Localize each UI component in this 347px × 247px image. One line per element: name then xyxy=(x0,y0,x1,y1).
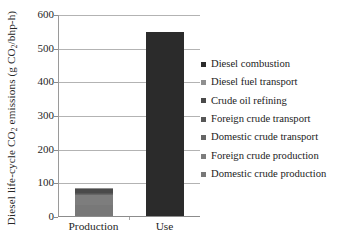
legend-item[interactable]: Domestic crude production xyxy=(201,165,347,183)
legend-item[interactable]: Foreign crude production xyxy=(201,147,347,165)
legend-item-label: Foreign crude transport xyxy=(211,114,310,125)
x-axis-tick-label: Use xyxy=(129,220,200,232)
x-axis-tick-labels: ProductionUse xyxy=(58,220,200,238)
y-axis-tick-label: 400 xyxy=(20,76,54,87)
legend-swatch-icon xyxy=(201,80,206,85)
bar-production[interactable] xyxy=(75,188,113,216)
legend-item[interactable]: Foreign crude transport xyxy=(201,110,347,128)
gridline xyxy=(58,15,200,16)
legend-item-label: Foreign crude production xyxy=(211,151,319,162)
legend-item-label: Diesel fuel transport xyxy=(211,77,298,88)
legend-item-label: Crude oil refining xyxy=(211,96,287,107)
chart-legend: Diesel combustionDiesel fuel transportCr… xyxy=(201,55,347,184)
y-axis-tick-label: 100 xyxy=(20,177,54,188)
legend-item-label: Diesel combustion xyxy=(211,59,290,70)
y-axis-title-pre: Diesel life-cycle CO xyxy=(5,131,17,225)
y-axis-tick-label: 0 xyxy=(20,211,54,222)
y-axis-tick xyxy=(54,217,58,218)
legend-item-label: Domestic crude transport xyxy=(211,132,318,143)
legend-item-label: Domestic crude production xyxy=(211,169,326,180)
plot-area xyxy=(58,15,200,217)
x-axis-tick-label: Production xyxy=(58,220,129,232)
y-axis-tick-labels: 0100200300400500600 xyxy=(18,15,54,217)
legend-swatch-icon xyxy=(201,135,206,140)
y-axis-tick-label: 500 xyxy=(20,43,54,54)
bar-segment xyxy=(75,205,113,216)
bar-segment xyxy=(146,32,184,216)
legend-swatch-icon xyxy=(201,154,206,159)
y-axis-title-mid: emissions (g CO xyxy=(5,48,17,127)
bar-segment xyxy=(75,188,113,189)
y-axis-tick-label: 600 xyxy=(20,9,54,20)
y-axis-line xyxy=(58,15,59,217)
legend-swatch-icon xyxy=(201,62,206,67)
legend-swatch-icon xyxy=(201,98,206,103)
chart-figure: Diesel life-cycle CO2 emissions (g CO2/b… xyxy=(0,0,347,247)
legend-swatch-icon xyxy=(201,117,206,122)
legend-item[interactable]: Diesel fuel transport xyxy=(201,73,347,91)
legend-item[interactable]: Crude oil refining xyxy=(201,92,347,110)
legend-item[interactable]: Domestic crude transport xyxy=(201,129,347,147)
bar-segment xyxy=(75,193,113,194)
y-axis-title-post: /bhp-h) xyxy=(5,10,17,44)
y-axis-tick-label: 300 xyxy=(20,110,54,121)
y-axis-tick-label: 200 xyxy=(20,144,54,155)
legend-item[interactable]: Diesel combustion xyxy=(201,55,347,73)
legend-swatch-icon xyxy=(201,172,206,177)
bar-segment xyxy=(75,189,113,193)
bar-segment xyxy=(75,194,113,205)
bar-use[interactable] xyxy=(146,32,184,216)
